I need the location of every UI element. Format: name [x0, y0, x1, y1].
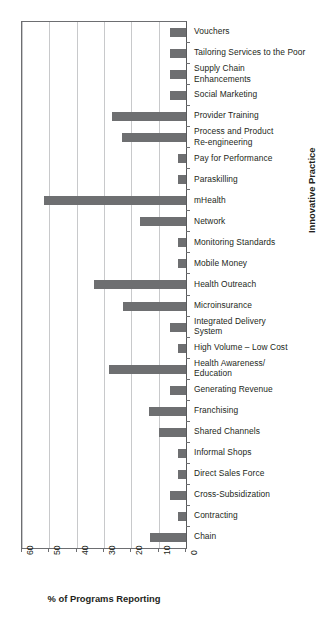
category-label: Informal Shops [194, 447, 322, 458]
category-label: Cross-Subsidization [194, 489, 322, 500]
category-label: Provider Training [194, 110, 322, 121]
bar[interactable] [140, 217, 186, 226]
x-axis-tick [48, 548, 49, 552]
bar-series [22, 22, 186, 548]
x-axis-tick [103, 548, 104, 552]
bar[interactable] [109, 365, 186, 374]
bar-row [22, 169, 186, 190]
bar[interactable] [170, 323, 186, 332]
category-tick [186, 295, 190, 296]
bar[interactable] [170, 28, 186, 37]
bar[interactable] [178, 259, 186, 268]
bar[interactable] [170, 491, 186, 500]
bar-row [22, 127, 186, 148]
category-label: Chain [194, 531, 322, 542]
category-tick [186, 379, 190, 380]
bar-row [22, 232, 186, 253]
x-axis-title: % of Programs Reporting [21, 593, 187, 604]
category-tick [186, 42, 190, 43]
bar[interactable] [94, 280, 186, 289]
category-tick [186, 442, 190, 443]
bar-row [22, 338, 186, 359]
bar-row [22, 506, 186, 527]
category-tick [186, 316, 190, 317]
category-label: High Volume – Low Cost [194, 342, 322, 353]
category-label: Monitoring Standards [194, 237, 322, 248]
category-label: Contracting [194, 510, 322, 521]
bar[interactable] [178, 238, 186, 247]
category-tick [186, 273, 190, 274]
category-label: Microinsurance [194, 300, 322, 311]
bar-row [22, 85, 186, 106]
bar[interactable] [112, 112, 186, 121]
category-label: Vouchers [194, 26, 322, 37]
bar[interactable] [122, 133, 186, 142]
x-axis-tick-label: 10 [162, 545, 172, 555]
x-axis: 6050403020100 % of Programs Reporting [0, 548, 331, 621]
x-axis-tick [76, 548, 77, 552]
bar-chart-figure: VouchersTailoring Services to the PoorSu… [0, 0, 331, 621]
bar-row [22, 380, 186, 401]
category-label: Supply Chain Enhancements [194, 63, 322, 84]
bar-row [22, 148, 186, 169]
bar-row [22, 253, 186, 274]
bar[interactable] [178, 175, 186, 184]
x-axis-tick-label: 50 [52, 545, 62, 555]
category-label: Pay for Performance [194, 153, 322, 164]
category-tick [186, 168, 190, 169]
bar[interactable] [178, 154, 186, 163]
category-tick [186, 358, 190, 359]
x-axis-tick-label: 40 [80, 545, 90, 555]
x-axis-tick [158, 548, 159, 552]
category-label: Network [194, 216, 322, 227]
bar[interactable] [178, 470, 186, 479]
bar[interactable] [178, 344, 186, 353]
category-tick [186, 463, 190, 464]
category-tick [186, 126, 190, 127]
category-tick [186, 526, 190, 527]
bar-row [22, 190, 186, 211]
bar-row [22, 211, 186, 232]
y-axis-title: Innovative Practice [306, 148, 317, 233]
category-tick [186, 337, 190, 338]
bar[interactable] [170, 70, 186, 79]
category-label: Shared Channels [194, 426, 322, 437]
bar-row [22, 274, 186, 295]
bar[interactable] [178, 449, 186, 458]
bar[interactable] [178, 512, 186, 521]
x-axis-tick-label: 20 [134, 545, 144, 555]
x-axis-tick [21, 548, 22, 552]
category-label: Integrated Delivery System [194, 316, 322, 337]
plot-area [21, 21, 187, 549]
category-label: mHealth [194, 195, 322, 206]
category-label: Health Outreach [194, 279, 322, 290]
bar[interactable] [170, 386, 186, 395]
category-label: Process and Product Re-engineering [194, 126, 322, 147]
bar[interactable] [159, 428, 186, 437]
category-label: Franchising [194, 405, 322, 416]
category-label: Paraskilling [194, 174, 322, 185]
bar[interactable] [44, 196, 186, 205]
category-label: Direct Sales Force [194, 468, 322, 479]
bar-row [22, 422, 186, 443]
bar-row [22, 22, 186, 43]
category-tick [186, 252, 190, 253]
bar[interactable] [170, 91, 186, 100]
category-label: Mobile Money [194, 258, 322, 269]
bar[interactable] [123, 302, 186, 311]
bar-row [22, 106, 186, 127]
category-tick [186, 63, 190, 64]
category-tick [186, 210, 190, 211]
category-tick [186, 189, 190, 190]
category-label: Social Marketing [194, 89, 322, 100]
category-tick [186, 231, 190, 232]
bar[interactable] [170, 49, 186, 58]
bar[interactable] [150, 533, 186, 542]
bar-row [22, 401, 186, 422]
bar-row [22, 317, 186, 338]
category-tick [186, 105, 190, 106]
category-tick [186, 505, 190, 506]
category-label: Generating Revenue [194, 384, 322, 395]
bar[interactable] [149, 407, 186, 416]
bar-row [22, 64, 186, 85]
